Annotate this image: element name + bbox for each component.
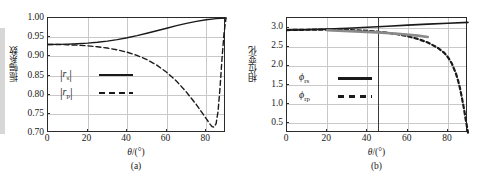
tickmark-y: [286, 27, 289, 28]
tickmark-x: [47, 129, 48, 132]
tickmark-x: [286, 129, 287, 132]
legend-swatch-phi-rp-dashed: [338, 91, 372, 101]
tickmark-y: [47, 17, 50, 18]
tickmark-y: [47, 36, 50, 37]
curve-rs: [48, 18, 226, 44]
panel-b-ytick-2.5: 2.5: [251, 41, 283, 50]
panel-a-caption: (a): [47, 161, 225, 171]
tickmark-x: [126, 129, 127, 132]
panel-b-theta-unit: /(°): [372, 147, 385, 157]
panel-b-x-axis-label: θ/(°): [286, 147, 467, 157]
panel-a-theta-unit: /(°): [132, 147, 145, 157]
legend-swatch-phi-rs-solid: [338, 73, 372, 83]
panel-b-ytick-0.5: 0.5: [251, 118, 283, 127]
panel-b-xtick-0: 0: [276, 134, 296, 143]
legend-label-rp: |rp|: [60, 86, 94, 100]
panel-b-ytick-1.5: 1.5: [251, 80, 283, 89]
legend-label-phi-rs: ϕrs: [299, 71, 333, 85]
panel-b-xtick-20: 20: [316, 134, 336, 143]
panel-a-x-axis-label: θ/(°): [47, 147, 225, 157]
tickmark-y: [47, 113, 50, 114]
panel-a-xtick-80: 80: [195, 134, 215, 143]
panel-b-ytick-3.0: 3.0: [251, 22, 283, 31]
tickmark-x: [407, 129, 408, 132]
tickmark-x: [447, 129, 448, 132]
panel-b-ytick-1.0: 1.0: [251, 99, 283, 108]
panel-b-xtick-60: 60: [397, 134, 417, 143]
panel-b: 相位变化 3.0 2.5 2.0 1.5 1.0 0.5: [241, 0, 482, 186]
panel-a-xtick-60: 60: [156, 134, 176, 143]
panel-a-xtick-40: 40: [116, 134, 136, 143]
panel-a-legend: |rs| |rp|: [60, 66, 133, 102]
panel-a-xtick-20: 20: [77, 134, 97, 143]
panel-a-ytick-0.85: 0.85: [12, 71, 44, 80]
legend-label-rs: |rs|: [60, 68, 94, 82]
panel-a-ytick-0.95: 0.95: [12, 32, 44, 41]
tickmark-x: [87, 129, 88, 132]
tickmark-y: [47, 55, 50, 56]
tickmark-y: [47, 94, 50, 95]
panel-a-ytick-0.80: 0.80: [12, 90, 44, 99]
legend-swatch-rp-dashed: [99, 88, 133, 98]
tickmark-y: [286, 65, 289, 66]
legend-item-phi-rs: ϕrs: [299, 69, 372, 87]
panel-a-xtick-0: 0: [37, 134, 57, 143]
panel-a-ytick-1.00: 1.00: [12, 13, 44, 22]
panel-a-ytick-0.75: 0.75: [12, 109, 44, 118]
tickmark-x: [326, 129, 327, 132]
tickmark-x: [366, 129, 367, 132]
panel-a-ytick-0.90: 0.90: [12, 51, 44, 60]
panel-b-caption: (b): [286, 161, 467, 171]
tickmark-y: [286, 84, 289, 85]
tickmark-y: [47, 75, 50, 76]
legend-item-phi-rp: ϕrp: [299, 87, 372, 105]
tickmark-y: [286, 46, 289, 47]
figure-container: 振幅系数 1.00 0.95 0.90 0.85 0.80 0.75 0.70: [0, 0, 482, 186]
panel-b-xtick-80: 80: [437, 134, 457, 143]
curve-ϕrsoverlaygray: [327, 30, 428, 37]
panel-b-ytick-2.0: 2.0: [251, 60, 283, 69]
legend-item-rp: |rp|: [60, 84, 133, 102]
tickmark-y: [286, 122, 289, 123]
legend-swatch-rs-solid: [99, 70, 133, 80]
legend-label-phi-rp: ϕrp: [299, 89, 333, 103]
legend-item-rs: |rs|: [60, 66, 133, 84]
panel-b-legend: ϕrs ϕrp: [299, 69, 372, 105]
tickmark-x: [166, 129, 167, 132]
tickmark-y: [286, 103, 289, 104]
panel-b-xtick-40: 40: [356, 134, 376, 143]
tickmark-x: [205, 129, 206, 132]
panel-a: 振幅系数 1.00 0.95 0.90 0.85 0.80 0.75 0.70: [0, 0, 241, 186]
